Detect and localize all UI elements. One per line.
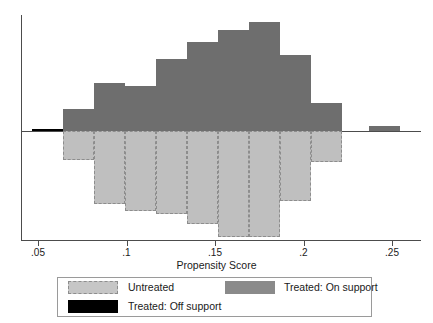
- x-tick-3: [304, 241, 305, 246]
- x-tick-label-2: .15: [195, 247, 235, 259]
- x-axis-title: Propensity Score: [0, 259, 433, 271]
- chart-legend: Untreated Treated: On support Treated: O…: [57, 277, 372, 317]
- on-support-swatch: [225, 281, 275, 294]
- propensity-score-histogram: .05.1.15.2.25 Propensity Score Untreated…: [0, 0, 433, 323]
- bar-untreated-7: [249, 131, 280, 237]
- plot-area: .05.1.15.2.25: [0, 0, 433, 250]
- bar-treated-on-support-6: [218, 30, 249, 131]
- bar-treated-on-support-8: [280, 55, 311, 131]
- bar-treated-on-support-2: [94, 83, 125, 131]
- x-tick-label-1: .1: [107, 247, 147, 259]
- bar-treated-on-support-3: [125, 86, 156, 131]
- x-tick-2: [215, 241, 216, 246]
- bar-untreated-5: [187, 131, 218, 224]
- x-tick-1: [127, 241, 128, 246]
- bar-untreated-6: [218, 131, 249, 237]
- bar-untreated-8: [280, 131, 311, 201]
- bar-treated-on-support-5: [187, 42, 218, 131]
- legend-row-1: Untreated Treated: On support: [58, 278, 371, 297]
- legend-row-2: Treated: Off support: [58, 297, 371, 316]
- x-tick-label-0: .05: [18, 247, 58, 259]
- x-axis-line: [21, 240, 421, 241]
- y-axis-line: [21, 15, 22, 241]
- legend-label-on-support: Treated: On support: [284, 281, 378, 294]
- x-tick-label-3: .2: [284, 247, 324, 259]
- bar-untreated-3: [125, 131, 156, 211]
- bar-untreated-9: [311, 131, 342, 162]
- legend-label-untreated: Untreated: [128, 281, 174, 294]
- x-tick-0: [38, 241, 39, 246]
- bar-treated-on-support-10: [369, 126, 400, 131]
- legend-label-off-support: Treated: Off support: [128, 300, 221, 313]
- bar-untreated-1: [63, 131, 94, 160]
- bar-treated-off-support-0: [32, 129, 63, 131]
- x-tick-label-4: .25: [372, 247, 412, 259]
- x-tick-4: [392, 241, 393, 246]
- bar-untreated-4: [156, 131, 187, 214]
- untreated-swatch: [68, 281, 118, 294]
- bar-untreated-2: [94, 131, 125, 204]
- bar-treated-on-support-4: [156, 59, 187, 131]
- off-support-swatch: [68, 300, 118, 313]
- bar-treated-on-support-9: [311, 103, 342, 131]
- bar-treated-on-support-7: [249, 22, 280, 131]
- bar-treated-on-support-1: [63, 109, 94, 131]
